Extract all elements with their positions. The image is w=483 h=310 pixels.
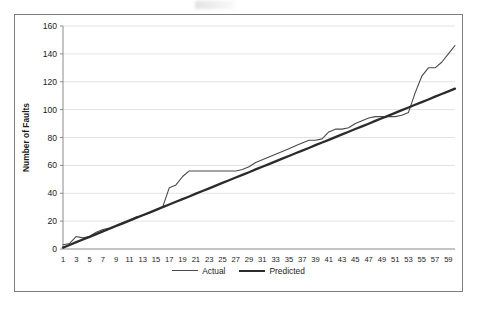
y-tick-label: 140 — [43, 49, 58, 59]
x-tick-label: 47 — [364, 255, 372, 264]
grid-lines — [63, 26, 455, 221]
x-tick-label: 29 — [245, 255, 253, 264]
x-tick-label: 3 — [74, 255, 78, 264]
x-tick-label: 41 — [325, 255, 333, 264]
x-tick-label: 1 — [61, 255, 65, 264]
x-tick-label: 51 — [391, 255, 399, 264]
x-tick-label: 21 — [192, 255, 200, 264]
x-tick-label: 59 — [444, 255, 452, 264]
x-tick-label: 55 — [418, 255, 426, 264]
chart-legend: Actual Predicted — [15, 267, 462, 275]
chart-container: 020406080100120140160 135791113151719212… — [14, 14, 463, 292]
legend-label-actual: Actual — [202, 267, 225, 275]
y-tick-label: 120 — [43, 77, 58, 87]
y-tick-label: 100 — [43, 105, 58, 115]
data-series-group — [63, 46, 455, 248]
x-tick-label: 11 — [125, 255, 133, 264]
x-tick-label: 39 — [311, 255, 319, 264]
legend-item-predicted: Predicted — [239, 267, 304, 275]
x-tick-label: 33 — [271, 255, 279, 264]
x-tick-label: 15 — [152, 255, 160, 264]
y-axis-tick-labels: 020406080100120140160 — [43, 21, 63, 254]
scan-artifact — [195, 1, 235, 9]
x-tick-label: 27 — [232, 255, 240, 264]
x-tick-label: 25 — [218, 255, 226, 264]
legend-label-predicted: Predicted — [269, 267, 304, 275]
x-tick-label: 17 — [165, 255, 173, 264]
y-tick-label: 0 — [52, 244, 57, 254]
y-tick-label: 20 — [47, 216, 57, 226]
series-line-predicted — [63, 89, 455, 248]
y-axis-title: Number of Faults — [21, 103, 31, 172]
x-tick-label: 7 — [101, 255, 105, 264]
x-tick-label: 53 — [404, 255, 412, 264]
legend-swatch-actual — [172, 270, 198, 271]
legend-swatch-predicted — [239, 270, 265, 272]
x-tick-label: 37 — [298, 255, 306, 264]
x-tick-label: 19 — [178, 255, 186, 264]
x-tick-label: 43 — [338, 255, 346, 264]
x-tick-label: 45 — [351, 255, 359, 264]
x-axis-tick-labels: 1357911131517192123252729313335373941434… — [61, 255, 453, 264]
x-tick-label: 9 — [114, 255, 118, 264]
x-tick-label: 35 — [285, 255, 293, 264]
x-tick-label: 57 — [431, 255, 439, 264]
y-tick-label: 60 — [47, 160, 57, 170]
series-line-actual — [63, 46, 455, 245]
x-tick-label: 23 — [205, 255, 213, 264]
x-tick-label: 13 — [139, 255, 147, 264]
y-tick-label: 40 — [47, 188, 57, 198]
plot-area: 020406080100120140160 135791113151719212… — [15, 15, 462, 291]
y-tick-label: 80 — [47, 133, 57, 143]
x-tick-label: 31 — [258, 255, 266, 264]
legend-item-actual: Actual — [172, 267, 225, 275]
x-tick-label: 49 — [378, 255, 386, 264]
line-chart: 020406080100120140160 135791113151719212… — [15, 15, 464, 293]
y-tick-label: 160 — [43, 21, 58, 31]
x-tick-label: 5 — [87, 255, 91, 264]
